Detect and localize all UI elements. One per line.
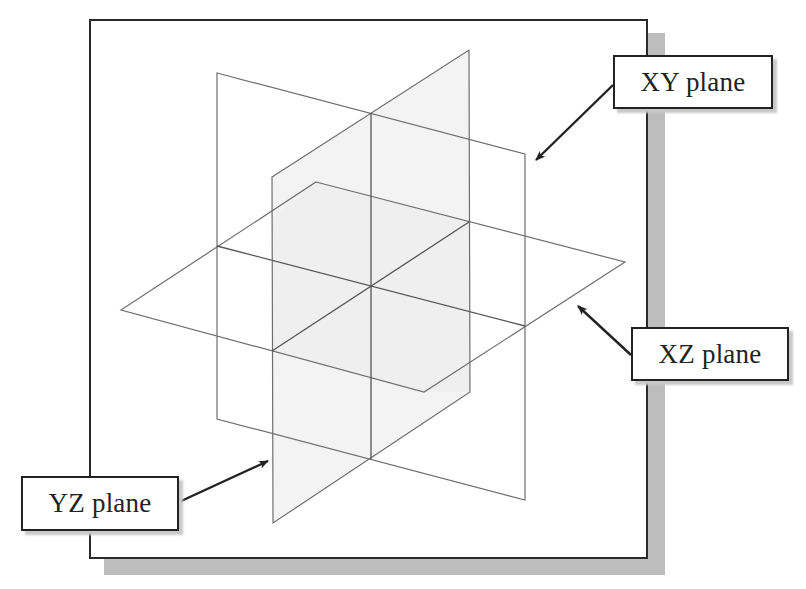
yz-plane-label-text: YZ plane bbox=[49, 488, 152, 519]
plane-intersections bbox=[217, 113, 525, 459]
yz-arrow bbox=[179, 461, 268, 502]
xy-plane-label: XY plane bbox=[613, 55, 773, 109]
xz-plane-label-text: XZ plane bbox=[659, 339, 762, 370]
xz-arrow bbox=[578, 306, 631, 355]
yz-plane-label: YZ plane bbox=[21, 476, 179, 531]
xy-arrow bbox=[536, 85, 613, 160]
xz-plane-label: XZ plane bbox=[631, 327, 789, 381]
xy-plane-label-text: XY plane bbox=[641, 67, 746, 98]
